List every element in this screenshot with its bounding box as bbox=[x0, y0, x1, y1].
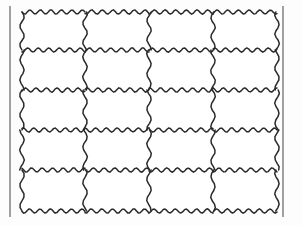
grid-cell-r3-c2[interactable] bbox=[87, 92, 147, 128]
grid-cell-r3-c1[interactable] bbox=[24, 92, 83, 128]
grid-cell-r4-c2[interactable] bbox=[87, 132, 147, 168]
grid-cell-r1-c3[interactable] bbox=[151, 14, 211, 48]
grid-cell-r4-c3[interactable] bbox=[151, 132, 211, 168]
grid-cell-r3-c3[interactable] bbox=[151, 92, 211, 128]
grid-cell-r2-c2[interactable] bbox=[87, 52, 147, 88]
grid-cell-r2-c3[interactable] bbox=[151, 52, 211, 88]
grid-cell-r1-c2[interactable] bbox=[87, 14, 147, 48]
grid-cell-r2-c1[interactable] bbox=[24, 52, 83, 88]
grid-cell-r5-c4[interactable] bbox=[215, 172, 275, 209]
figure-canvas bbox=[0, 0, 302, 226]
grid-cell-r3-c4[interactable] bbox=[215, 92, 275, 128]
grid-cell-r2-c4[interactable] bbox=[215, 52, 275, 88]
grid-cell-r5-c3[interactable] bbox=[151, 172, 211, 209]
grid-cell-r5-c2[interactable] bbox=[87, 172, 147, 209]
grid-cell-r4-c4[interactable] bbox=[215, 132, 275, 168]
grid-cell-r1-c4[interactable] bbox=[215, 14, 275, 48]
grid-cell-r5-c1[interactable] bbox=[24, 172, 83, 209]
grid-cell-r4-c1[interactable] bbox=[24, 132, 83, 168]
grid-cell-r1-c1[interactable] bbox=[24, 14, 83, 48]
